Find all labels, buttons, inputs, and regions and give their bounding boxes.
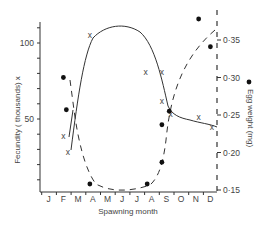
right-tick-label: 0·15: [223, 185, 240, 195]
egg-weight-curve: [70, 30, 215, 190]
x-ticks: JFMAMJJASOND: [42, 192, 214, 204]
egg-weight-point: [208, 44, 213, 49]
egg-weight-point: [64, 107, 69, 112]
x-tick-label: S: [163, 194, 169, 204]
fecundity-point: x: [160, 96, 165, 106]
x-axis-title: Spawning month: [98, 207, 158, 216]
egg-weight-legend-dot: [247, 80, 252, 85]
fecundity-point: x: [66, 147, 71, 157]
egg-weight-point: [61, 75, 66, 80]
fecundity-point: x: [197, 112, 202, 122]
x-tick-label: O: [178, 194, 185, 204]
egg-weight-point: [159, 122, 164, 127]
right-tick-label: 0·25: [223, 110, 240, 120]
egg-weight-point: [167, 109, 172, 114]
x-tick-label: J: [135, 194, 139, 204]
egg-weight-point: [145, 182, 150, 187]
fecundity-curve: [71, 26, 217, 150]
x-tick-label: D: [207, 194, 213, 204]
left-axis-title: Fecundity ( thousands) x: [13, 76, 22, 164]
x-tick-label: J: [47, 194, 51, 204]
right-axis-title: Egg weight (mg): [246, 89, 255, 148]
right-tick-label: 0·20: [223, 148, 240, 158]
right-tick-label: 0·30: [223, 73, 240, 83]
right-y-ticks: 0·150·200·250·300·35: [217, 35, 240, 195]
chart: 50100 JFMAMJJASOND 0·150·200·250·300·35 …: [0, 0, 262, 225]
x-tick-label: A: [90, 194, 96, 204]
fecundity-point: x: [61, 131, 66, 141]
egg-weight-point: [196, 17, 201, 22]
fecundity-curve-feb: [69, 110, 73, 137]
fecundity-point: x: [144, 67, 149, 77]
x-tick-label: A: [149, 194, 155, 204]
egg-weight-point: [87, 182, 92, 187]
x-tick-label: M: [75, 194, 82, 204]
x-tick-label: J: [120, 194, 124, 204]
right-tick-label: 0·35: [223, 35, 240, 45]
fecundity-point: x: [160, 67, 165, 77]
fecundity-point: x: [210, 122, 215, 132]
x-tick-label: F: [61, 194, 66, 204]
data-markers: xxxxxxxxx: [61, 17, 215, 187]
fecundity-point: x: [88, 30, 93, 40]
left-tick-label: 50: [25, 114, 35, 124]
left-tick-label: 100: [20, 38, 34, 48]
left-y-ticks: 50100: [20, 28, 40, 180]
x-tick-label: N: [193, 194, 199, 204]
egg-weight-point: [159, 160, 164, 165]
x-tick-label: M: [104, 194, 111, 204]
